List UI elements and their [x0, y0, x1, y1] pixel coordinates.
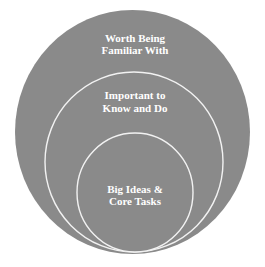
- inner-circle-label-line-2: Core Tasks: [109, 195, 162, 207]
- middle-circle-label-line-2: Know and Do: [103, 102, 168, 114]
- outer-circle-label-line-1: Worth Being: [105, 32, 166, 44]
- nested-circles-diagram: Worth Being Familiar With Important to K…: [0, 0, 265, 267]
- inner-circle-label-line-1: Big Ideas &: [107, 183, 163, 195]
- outer-circle-label-line-2: Familiar With: [102, 44, 169, 56]
- middle-circle-label-line-1: Important to: [105, 89, 166, 101]
